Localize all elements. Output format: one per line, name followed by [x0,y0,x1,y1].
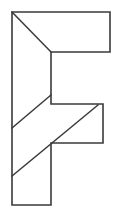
letter-f-figure [0,0,116,216]
